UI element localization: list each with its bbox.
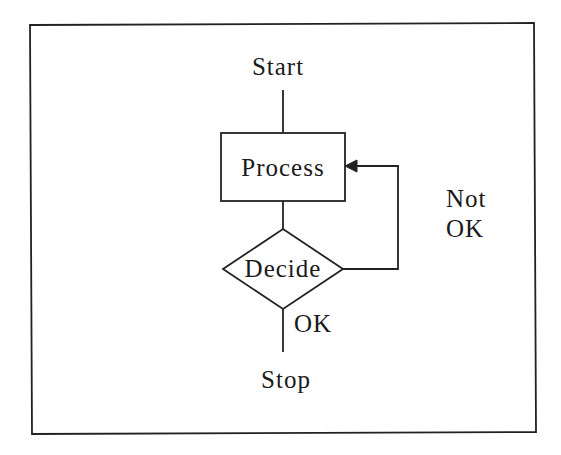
- flowchart-diagram: Start Process Decide OK Stop Not OK: [0, 0, 561, 455]
- start-label: Start: [252, 53, 304, 80]
- stop-label: Stop: [261, 366, 311, 393]
- feedback-arrowhead-icon: [345, 160, 357, 172]
- not-ok-feedback-connector: [343, 166, 398, 269]
- not-ok-label-line1: Not: [446, 185, 487, 212]
- process-label: Process: [241, 154, 324, 181]
- ok-label: OK: [294, 310, 332, 337]
- decide-label: Decide: [245, 255, 322, 282]
- not-ok-label-line2: OK: [446, 215, 484, 242]
